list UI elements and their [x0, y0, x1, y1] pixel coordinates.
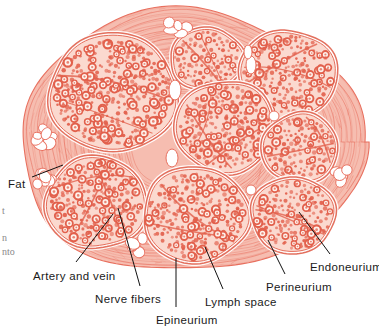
unmyelinated-nerve-fiber	[205, 160, 210, 165]
unmyelinated-nerve-fiber	[291, 118, 294, 121]
axon-core	[216, 212, 218, 214]
unmyelinated-nerve-fiber	[138, 74, 142, 78]
unmyelinated-nerve-fiber	[295, 214, 300, 219]
axon-core	[226, 125, 228, 127]
unmyelinated-nerve-fiber	[61, 103, 65, 107]
unmyelinated-nerve-fiber	[149, 205, 151, 207]
unmyelinated-nerve-fiber	[221, 248, 224, 251]
axon-core	[68, 222, 70, 224]
unmyelinated-nerve-fiber	[195, 197, 199, 201]
unmyelinated-nerve-fiber	[319, 210, 322, 213]
unmyelinated-nerve-fiber	[120, 88, 124, 92]
unmyelinated-nerve-fiber	[288, 74, 291, 77]
unmyelinated-nerve-fiber	[185, 120, 189, 124]
unmyelinated-nerve-fiber	[93, 222, 97, 226]
unmyelinated-nerve-fiber	[86, 219, 89, 222]
unmyelinated-nerve-fiber	[283, 241, 286, 244]
unmyelinated-nerve-fiber	[318, 56, 321, 59]
unmyelinated-nerve-fiber	[306, 162, 309, 165]
unmyelinated-nerve-fiber	[204, 238, 207, 241]
axon-core	[231, 237, 233, 239]
unmyelinated-nerve-fiber	[279, 158, 283, 162]
unmyelinated-nerve-fiber	[254, 109, 257, 112]
unmyelinated-nerve-fiber	[279, 44, 282, 47]
axon-core	[119, 60, 121, 62]
axon-core	[309, 73, 311, 75]
unmyelinated-nerve-fiber	[61, 68, 65, 72]
unmyelinated-nerve-fiber	[103, 120, 107, 124]
axon-core	[311, 159, 313, 161]
unmyelinated-nerve-fiber	[250, 149, 254, 153]
unmyelinated-nerve-fiber	[305, 46, 309, 50]
unmyelinated-nerve-fiber	[184, 76, 187, 79]
unmyelinated-nerve-fiber	[199, 218, 202, 221]
page-text-fragment: nto	[2, 246, 15, 257]
unmyelinated-nerve-fiber	[191, 65, 194, 68]
unmyelinated-nerve-fiber	[232, 86, 234, 88]
unmyelinated-nerve-fiber	[256, 118, 260, 122]
unmyelinated-nerve-fiber	[187, 70, 189, 72]
fascicle	[249, 175, 339, 256]
unmyelinated-nerve-fiber	[59, 112, 62, 115]
unmyelinated-nerve-fiber	[79, 237, 82, 240]
unmyelinated-nerve-fiber	[213, 148, 218, 153]
unmyelinated-nerve-fiber	[298, 80, 300, 82]
unmyelinated-nerve-fiber	[303, 57, 306, 60]
unmyelinated-nerve-fiber	[72, 201, 74, 203]
unmyelinated-nerve-fiber	[174, 213, 178, 217]
axon-core	[153, 101, 156, 104]
label-nerve-fibers: Nerve fibers	[95, 293, 161, 305]
unmyelinated-nerve-fiber	[275, 210, 279, 214]
unmyelinated-nerve-fiber	[304, 135, 308, 139]
unmyelinated-nerve-fiber	[249, 141, 252, 144]
label-endoneurium: Endoneurium	[310, 261, 379, 273]
unmyelinated-nerve-fiber	[134, 135, 136, 137]
unmyelinated-nerve-fiber	[134, 219, 137, 222]
unmyelinated-nerve-fiber	[154, 206, 157, 209]
unmyelinated-nerve-fiber	[59, 206, 64, 211]
unmyelinated-nerve-fiber	[203, 241, 207, 245]
unmyelinated-nerve-fiber	[179, 125, 183, 129]
unmyelinated-nerve-fiber	[180, 210, 183, 213]
unmyelinated-nerve-fiber	[105, 98, 110, 103]
unmyelinated-nerve-fiber	[258, 69, 263, 74]
unmyelinated-nerve-fiber	[224, 117, 228, 121]
unmyelinated-nerve-fiber	[240, 101, 244, 105]
axon-core	[183, 236, 185, 238]
unmyelinated-nerve-fiber	[310, 196, 314, 200]
unmyelinated-nerve-fiber	[65, 203, 68, 206]
unmyelinated-nerve-fiber	[322, 141, 324, 143]
unmyelinated-nerve-fiber	[223, 66, 226, 69]
unmyelinated-nerve-fiber	[166, 231, 169, 234]
unmyelinated-nerve-fiber	[212, 162, 215, 165]
unmyelinated-nerve-fiber	[275, 226, 278, 229]
unmyelinated-nerve-fiber	[218, 199, 221, 202]
unmyelinated-nerve-fiber	[232, 159, 235, 162]
axon-core	[261, 232, 263, 234]
axon-core	[137, 120, 140, 123]
unmyelinated-nerve-fiber	[156, 224, 160, 228]
unmyelinated-nerve-fiber	[318, 158, 321, 161]
axon-core	[97, 186, 99, 188]
unmyelinated-nerve-fiber	[326, 213, 329, 216]
axon-core	[235, 139, 237, 141]
unmyelinated-nerve-fiber	[275, 147, 278, 150]
axon-core	[69, 171, 71, 173]
unmyelinated-nerve-fiber	[210, 66, 213, 69]
unmyelinated-nerve-fiber	[280, 167, 284, 171]
unmyelinated-nerve-fiber	[228, 68, 231, 71]
unmyelinated-nerve-fiber	[241, 161, 244, 164]
axon-core	[205, 142, 207, 144]
axon-core	[232, 189, 234, 191]
axon-core	[161, 113, 163, 115]
unmyelinated-nerve-fiber	[236, 207, 240, 211]
unmyelinated-nerve-fiber	[86, 167, 89, 170]
axon-core	[232, 44, 234, 46]
unmyelinated-nerve-fiber	[109, 227, 112, 230]
unmyelinated-nerve-fiber	[226, 220, 230, 224]
unmyelinated-nerve-fiber	[66, 191, 69, 194]
axon-core	[199, 190, 201, 192]
unmyelinated-nerve-fiber	[122, 95, 125, 98]
unmyelinated-nerve-fiber	[321, 92, 325, 96]
unmyelinated-nerve-fiber	[302, 69, 306, 73]
